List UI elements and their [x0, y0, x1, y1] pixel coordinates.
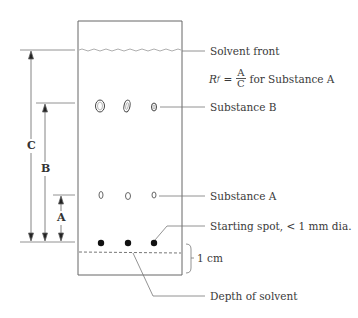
- starting-spot-leader: [155, 226, 205, 240]
- dimension-c-label: C: [27, 139, 36, 153]
- substance-a-spots: [99, 192, 156, 200]
- substance-b-spots: [96, 100, 157, 113]
- rf-fraction: A C: [236, 68, 245, 89]
- tlc-diagram: [0, 0, 358, 318]
- one-cm-bracket: [186, 244, 191, 273]
- solvent-front-line: [79, 49, 181, 51]
- solvent-depth-line: [79, 252, 181, 253]
- dimension-b-label: B: [41, 162, 50, 176]
- dimension-a-label: A: [57, 211, 66, 225]
- rf-symbol: R: [209, 73, 217, 85]
- depth-of-solvent-label: Depth of solvent: [210, 290, 297, 302]
- one-cm-label: 1 cm: [197, 252, 223, 264]
- rf-denominator: C: [237, 79, 245, 89]
- starting-spot-label: Starting spot, < 1 mm dia.: [210, 220, 352, 232]
- rf-formula: Rf = A C for Substance A: [209, 68, 334, 89]
- tlc-plate: [78, 21, 182, 115]
- substance-a-label: Substance A: [210, 190, 276, 202]
- solvent-front-label: Solvent front: [210, 45, 280, 57]
- rf-equals: =: [224, 73, 233, 85]
- tlc-plate-outline: [78, 21, 182, 275]
- rf-subscript: f: [217, 75, 220, 83]
- substance-b-label: Substance B: [210, 101, 276, 113]
- rf-suffix: for Substance A: [250, 73, 335, 85]
- starting-spots: [98, 240, 157, 246]
